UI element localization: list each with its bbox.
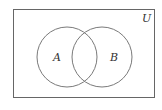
universe-rectangle bbox=[14, 10, 155, 98]
venn-diagram: A B U bbox=[0, 0, 162, 110]
set-a-label: A bbox=[52, 51, 61, 64]
set-b-circle bbox=[72, 27, 132, 87]
set-a-circle bbox=[37, 27, 97, 87]
universe-label: U bbox=[142, 12, 152, 25]
set-b-label: B bbox=[109, 51, 118, 64]
